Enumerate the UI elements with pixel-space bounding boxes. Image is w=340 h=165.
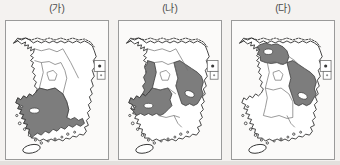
map-panel-da: (다) (228, 0, 338, 160)
map-frame-ga (5, 20, 109, 160)
inset-dokdo (97, 71, 105, 79)
inset-ulleungdo (320, 61, 331, 72)
inset-dokdo (210, 71, 218, 79)
inset-ulleungdo (207, 61, 218, 72)
map-panel-na: (나) (115, 0, 225, 160)
panel-label-ga: (가) (49, 0, 65, 20)
inset-ulleungdo (94, 61, 105, 72)
bottom-edge-strip (0, 161, 340, 165)
three-map-figure: (가) (0, 0, 340, 165)
map-frame-da (231, 20, 335, 160)
map-panel-ga: (가) (2, 0, 112, 160)
map-frame-na (118, 20, 222, 160)
panel-label-da: (다) (275, 0, 291, 20)
inset-dokdo (323, 71, 331, 79)
panel-label-na: (나) (162, 0, 178, 20)
